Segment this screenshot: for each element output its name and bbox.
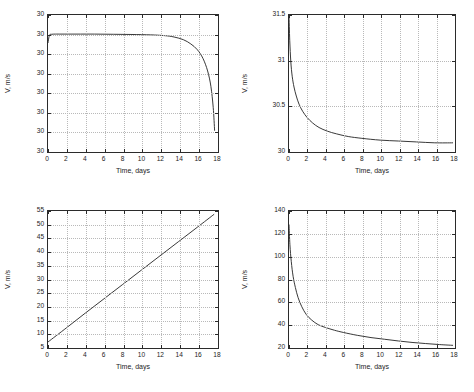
x-axis-tick	[161, 15, 162, 18]
x-tick-label: 12	[395, 156, 402, 163]
y-axis-tick	[215, 307, 218, 308]
x-axis-tick	[124, 149, 125, 152]
plot-area-top-left	[47, 14, 219, 153]
x-tick-label: 8	[360, 352, 364, 359]
gridline-vertical	[326, 211, 327, 348]
y-tick-labels-top-right: 3030.53131.5	[237, 14, 285, 153]
panel-top-right: V, m/s 3030.53131.5 024681012141618 Time…	[237, 0, 474, 196]
x-tick-label: 16	[194, 156, 201, 163]
y-axis-tick	[289, 234, 292, 235]
y-tick-labels-bottom-left: 510152025303540455055	[0, 210, 44, 349]
gridline-vertical	[363, 15, 364, 152]
x-tick-label: 4	[83, 156, 87, 163]
x-axis-tick	[289, 15, 290, 18]
x-axis-tick	[48, 345, 49, 348]
y-axis-tick	[48, 225, 51, 226]
x-axis-tick	[161, 211, 162, 214]
x-tick-label: 2	[64, 352, 68, 359]
x-axis-tick	[67, 149, 68, 152]
y-axis-tick	[48, 266, 51, 267]
x-axis-tick	[105, 15, 106, 18]
x-tick-label: 10	[377, 156, 384, 163]
x-tick-label: 12	[395, 352, 402, 359]
x-axis-title-top-right: Time, days	[288, 167, 456, 174]
plot-area-top-right	[288, 14, 456, 153]
x-tick-label: 16	[432, 156, 439, 163]
y-tick-label: 50	[37, 220, 44, 227]
x-tick-label: 2	[305, 352, 309, 359]
gridline-horizontal	[289, 280, 455, 281]
y-tick-label: 30	[37, 89, 44, 96]
y-tick-label: 20	[37, 303, 44, 310]
y-tick-label: 60	[278, 298, 285, 305]
x-axis-tick	[86, 345, 87, 348]
gridline-vertical	[307, 15, 308, 152]
x-axis-title-bottom-right: Time, days	[288, 363, 456, 370]
x-axis-tick	[381, 211, 382, 214]
x-tick-label: 18	[213, 156, 220, 163]
x-axis-tick	[418, 15, 419, 18]
gridline-vertical	[142, 15, 143, 152]
y-axis-tick	[48, 252, 51, 253]
x-axis-tick	[326, 149, 327, 152]
x-axis-tick	[326, 211, 327, 214]
y-axis-tick	[289, 152, 292, 153]
x-axis-tick	[363, 149, 364, 152]
gridline-vertical	[326, 15, 327, 152]
x-axis-tick	[363, 211, 364, 214]
y-axis-tick	[452, 348, 455, 349]
x-tick-label: 18	[450, 156, 457, 163]
gridline-vertical	[86, 15, 87, 152]
gridline-vertical	[180, 211, 181, 348]
x-axis-tick	[400, 149, 401, 152]
x-axis-tick	[344, 211, 345, 214]
y-tick-label: 30	[37, 50, 44, 57]
y-axis-tick	[215, 266, 218, 267]
gridline-vertical	[418, 15, 419, 152]
panel-bottom-left: V, m/s 510152025303540455055 02468101214…	[0, 196, 237, 392]
gridline-vertical	[105, 15, 106, 152]
x-axis-tick	[161, 345, 162, 348]
x-axis-tick	[307, 345, 308, 348]
x-axis-tick	[142, 211, 143, 214]
gridline-horizontal	[48, 132, 218, 133]
y-tick-label: 40	[278, 321, 285, 328]
y-axis-tick	[452, 152, 455, 153]
x-axis-tick	[289, 149, 290, 152]
x-tick-label: 0	[45, 156, 49, 163]
x-axis-tick	[437, 345, 438, 348]
y-axis-tick	[48, 293, 51, 294]
y-tick-label: 10	[37, 330, 44, 337]
x-axis-tick	[418, 149, 419, 152]
gridline-vertical	[418, 211, 419, 348]
x-tick-label: 14	[176, 156, 183, 163]
x-axis-tick	[400, 211, 401, 214]
gridline-vertical	[437, 211, 438, 348]
x-axis-tick	[455, 211, 456, 214]
gridline-horizontal	[289, 234, 455, 235]
gridline-vertical	[124, 15, 125, 152]
x-axis-tick	[124, 211, 125, 214]
y-axis-tick	[215, 54, 218, 55]
y-axis-tick	[452, 280, 455, 281]
x-axis-tick	[363, 345, 364, 348]
y-axis-tick	[215, 93, 218, 94]
x-axis-tick	[455, 15, 456, 18]
x-tick-labels-top-right: 024681012141618	[288, 156, 456, 166]
gridline-vertical	[86, 211, 87, 348]
x-tick-label: 18	[213, 352, 220, 359]
x-tick-labels-top-left: 024681012141618	[47, 156, 219, 166]
panel-top-left: V, m/s 3030303030303030 024681012141618 …	[0, 0, 237, 196]
gridline-horizontal	[48, 113, 218, 114]
x-tick-label: 4	[323, 156, 327, 163]
x-tick-label: 16	[432, 352, 439, 359]
x-axis-tick	[142, 15, 143, 18]
x-tick-labels-bottom-right: 024681012141618	[288, 352, 456, 362]
panel-bottom-right: V, m/s 20406080100120140 024681012141618…	[237, 196, 474, 392]
y-tick-label: 20	[278, 344, 285, 351]
x-tick-label: 10	[377, 352, 384, 359]
x-tick-label: 6	[341, 352, 345, 359]
x-tick-label: 6	[341, 156, 345, 163]
x-axis-tick	[289, 345, 290, 348]
x-axis-tick	[67, 345, 68, 348]
